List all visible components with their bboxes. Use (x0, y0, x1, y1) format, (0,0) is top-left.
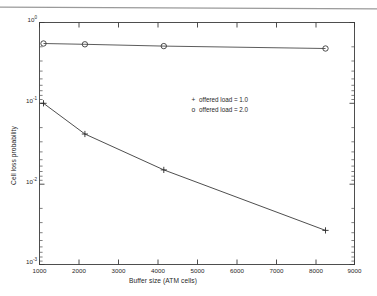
legend-entry-offered-load-2: o offered load = 2.0 (188, 105, 248, 115)
ytick-label-3: 10-3 (13, 258, 37, 265)
plus-marker-icon: + (188, 95, 199, 105)
circle-marker-icon: o (188, 105, 199, 115)
xtick-label-2000: 2000 (65, 267, 93, 274)
legend-label-offered-load-2: offered load = 2.0 (199, 105, 248, 115)
xtick-label-6000: 6000 (223, 267, 251, 274)
xtick-label-4000: 4000 (144, 267, 172, 274)
xtick-label-9000: 9000 (341, 267, 369, 274)
xtick-label-8000: 8000 (302, 267, 330, 274)
x-axis-title: Buffer size (ATM cells) (129, 277, 197, 284)
axis-frame (39, 22, 355, 265)
xtick-label-3000: 3000 (105, 267, 133, 274)
series-offered-load-2 (41, 41, 328, 51)
xtick-label-1000: 1000 (26, 267, 54, 274)
legend-entry-offered-load-1: + offered load = 1.0 (188, 95, 248, 105)
y-minor-ticks (40, 47, 355, 261)
series-offered-load-1 (40, 100, 328, 233)
y-axis-title: Cell loss probability (10, 116, 17, 196)
x-major-ticks (40, 23, 355, 265)
ytick-label-2: 10-2 (13, 178, 37, 185)
legend-label-offered-load-1: offered load = 1.0 (199, 95, 248, 105)
xtick-label-7000: 7000 (263, 267, 291, 274)
ytick-label-1: 10-1 (13, 97, 37, 104)
chart-figure: 100 10-1 10-2 10-3 1000 2000 3000 4000 5… (0, 0, 377, 296)
ytick-label-0: 100 (13, 16, 37, 23)
xtick-label-5000: 5000 (184, 267, 212, 274)
y-major-ticks (40, 23, 355, 265)
chart-legend: + offered load = 1.0 o offered load = 2.… (188, 95, 248, 115)
plot-canvas (0, 0, 377, 296)
